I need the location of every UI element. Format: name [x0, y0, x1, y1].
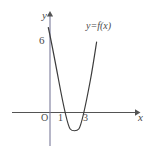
- y-axis-label: y: [42, 10, 47, 21]
- y-tick-label-6: 6: [39, 35, 45, 46]
- parabola-plot: [0, 0, 152, 157]
- y-axis: [47, 11, 53, 146]
- x-axis-label: x: [138, 112, 143, 123]
- parabola-curve: [48, 28, 96, 131]
- x-tick-label-1: 1: [58, 113, 63, 123]
- y-axis-arrowhead: [47, 11, 53, 17]
- origin-label: O: [41, 113, 48, 123]
- x-axis: [12, 109, 141, 115]
- curve-label: y=f(x): [86, 21, 111, 31]
- x-tick-label-3: 3: [83, 113, 88, 123]
- graph-figure: y x 6 O 1 3 y=f(x): [0, 0, 152, 157]
